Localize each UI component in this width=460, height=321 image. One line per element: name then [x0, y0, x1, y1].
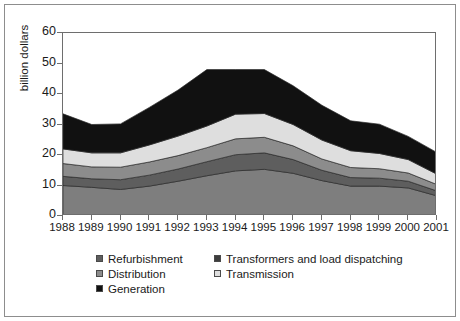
legend-item[interactable]: Transformers and load dispatching: [214, 252, 404, 266]
chart-figure: billion dollars 6050403020100 1988198919…: [0, 0, 460, 321]
y-tick-label: 30: [30, 118, 56, 128]
x-tick-mark: [62, 215, 63, 220]
legend-item-label: Generation: [108, 283, 165, 295]
y-tick-mark: [57, 185, 62, 186]
x-axis-labels: 1988198919901991199219931994199519961997…: [62, 221, 436, 237]
legend-column-1: RefurbishmentDistributionGeneration: [96, 252, 208, 297]
x-tick-label: 2001: [416, 221, 456, 233]
x-tick-mark: [235, 215, 236, 220]
x-tick-mark: [407, 215, 408, 220]
x-tick-mark: [120, 215, 121, 220]
legend-item-label: Transmission: [226, 268, 294, 280]
x-tick-mark: [177, 215, 178, 220]
y-tick-label: 0: [30, 209, 56, 219]
legend-item-label: Refurbishment: [108, 253, 183, 265]
x-tick-mark: [436, 215, 437, 220]
legend-swatch-icon: [96, 255, 103, 262]
x-tick-mark: [91, 215, 92, 220]
legend-item[interactable]: Refurbishment: [96, 252, 208, 266]
y-tick-label: 60: [30, 26, 56, 36]
x-tick-mark: [378, 215, 379, 220]
plot-area: [62, 32, 436, 215]
y-axis-ticks: 6050403020100: [26, 0, 56, 321]
y-tick-label: 50: [30, 57, 56, 67]
legend-item-label: Distribution: [108, 268, 166, 280]
legend-item[interactable]: Distribution: [96, 267, 208, 281]
x-tick-mark: [321, 215, 322, 220]
y-tick-mark: [57, 63, 62, 64]
x-tick-mark: [148, 215, 149, 220]
legend-swatch-icon: [96, 270, 103, 277]
legend-item-label: Transformers and load dispatching: [226, 253, 403, 265]
y-tick-mark: [57, 32, 62, 33]
y-tick-label: 10: [30, 179, 56, 189]
legend-swatch-icon: [214, 255, 221, 262]
x-tick-mark: [350, 215, 351, 220]
legend-swatch-icon: [214, 270, 221, 277]
legend-item[interactable]: Transmission: [214, 267, 404, 281]
y-tick-mark: [57, 124, 62, 125]
legend-item[interactable]: Generation: [96, 282, 208, 296]
y-tick-mark: [57, 93, 62, 94]
x-tick-mark: [292, 215, 293, 220]
legend-swatch-icon: [96, 285, 103, 292]
stacked-area-plot: [63, 33, 436, 215]
y-tick-label: 20: [30, 148, 56, 158]
x-tick-mark: [206, 215, 207, 220]
x-tick-mark: [263, 215, 264, 220]
y-tick-mark: [57, 154, 62, 155]
legend-column-2: Transformers and load dispatchingTransmi…: [214, 252, 404, 282]
y-tick-label: 40: [30, 87, 56, 97]
